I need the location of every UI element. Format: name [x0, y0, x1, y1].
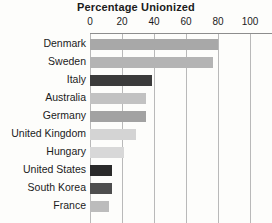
category-label: Germany — [0, 109, 86, 121]
x-tick-label: 0 — [87, 16, 93, 27]
bar-row — [90, 126, 250, 144]
bar-chart-figure: Percentage Unionized 020406080100 Denmar… — [0, 0, 272, 223]
plot-area — [90, 33, 272, 223]
category-label: United Kingdom — [0, 127, 86, 139]
category-label: South Korea — [0, 181, 86, 193]
bar-row — [90, 180, 250, 198]
bar-row — [90, 72, 250, 90]
bar-row — [90, 162, 250, 180]
category-label: Italy — [0, 73, 86, 85]
bar — [90, 111, 146, 122]
category-label: Sweden — [0, 55, 86, 67]
bar — [90, 183, 112, 194]
category-label: Denmark — [0, 37, 86, 49]
bar — [90, 165, 112, 176]
x-tick-label: 80 — [212, 16, 223, 27]
bar — [90, 147, 124, 158]
bar-series — [90, 34, 272, 223]
x-tick-label: 40 — [148, 16, 159, 27]
bar — [90, 57, 213, 68]
category-label: France — [0, 199, 86, 211]
category-label: Hungary — [0, 145, 86, 157]
bar-row — [90, 108, 250, 126]
category-label: United States — [0, 163, 86, 175]
bar — [90, 39, 218, 50]
x-axis-tick-labels: 020406080100 — [0, 16, 272, 30]
bar-row — [90, 144, 250, 162]
bar-row — [90, 198, 250, 216]
bar-row — [90, 90, 250, 108]
bar — [90, 129, 136, 140]
chart-title: Percentage Unionized — [0, 1, 272, 13]
x-tick-label: 100 — [242, 16, 259, 27]
bar-row — [90, 54, 250, 72]
bar — [90, 201, 109, 212]
bar-row — [90, 36, 250, 54]
x-tick-label: 20 — [116, 16, 127, 27]
bar — [90, 93, 146, 104]
x-tick-label: 60 — [180, 16, 191, 27]
y-axis-category-labels: DenmarkSwedenItalyAustraliaGermanyUnited… — [0, 33, 86, 223]
category-label: Australia — [0, 91, 86, 103]
bar — [90, 75, 152, 86]
